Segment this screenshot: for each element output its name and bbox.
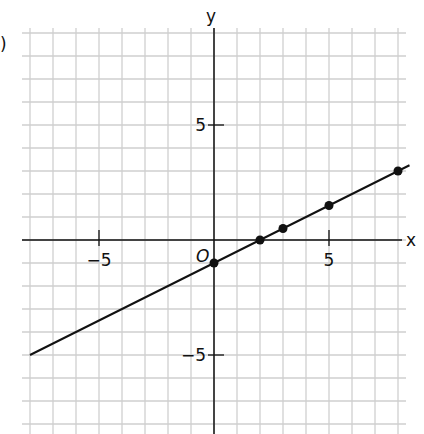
coordinate-plot: −555−5 x y O )	[0, 0, 424, 434]
axes	[22, 28, 402, 434]
x-tick-label: −5	[86, 250, 111, 270]
y-tick-label: 5	[195, 115, 206, 135]
data-point	[325, 201, 334, 210]
y-axis-label: y	[206, 6, 216, 26]
origin-label: O	[196, 246, 209, 266]
data-point	[256, 236, 265, 245]
data-point	[394, 167, 403, 176]
y-tick-label: −5	[181, 345, 206, 365]
data-point	[279, 224, 288, 233]
x-tick-label: 5	[324, 250, 335, 270]
problem-label: )	[0, 34, 7, 54]
data-point	[210, 259, 219, 268]
x-axis-label: x	[406, 230, 416, 250]
